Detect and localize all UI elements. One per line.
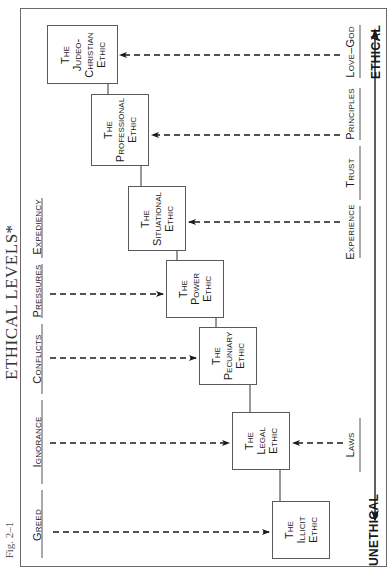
label-ignorance: Ignorance [31, 407, 45, 477]
box-legal-ethic: The Legal Ethic [232, 412, 290, 470]
label-expediency: Expediency [31, 192, 45, 262]
box-situational-ethic: The Situational Ethic [128, 186, 186, 251]
box-professional-ethic: The Professional Ethic [91, 94, 149, 166]
label-experience: Experience [344, 197, 358, 267]
label-love-god: Love–God [344, 17, 358, 87]
box-pecuniary-ethic: The Pecuniary Ethic [199, 327, 257, 385]
box-illicit-ethic: The Illicit Ethic [272, 501, 330, 559]
label-greed: Greed [31, 490, 45, 560]
label-conflicts: Conflicts [31, 324, 45, 394]
axis-label-ethical: ETHICAL [369, 17, 385, 87]
box-power-ethic: The Power Ethic [166, 260, 224, 318]
label-laws: Laws [344, 410, 358, 480]
label-pressures: Pressures [31, 256, 45, 326]
axis-label-unethical: UNETHICAL [367, 485, 383, 575]
box-judeo-christian-ethic: The Judeo- Christian Ethic [47, 25, 118, 84]
